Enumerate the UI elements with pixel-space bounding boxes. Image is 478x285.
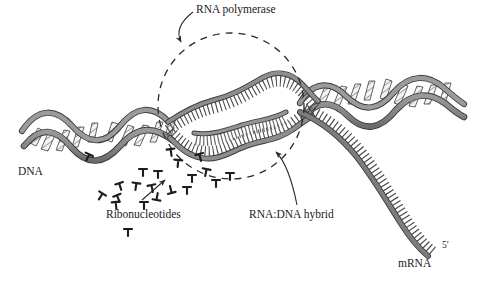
hybrid-rna-backbone xyxy=(194,112,286,134)
rna-dna-hybrid-leader xyxy=(276,152,297,205)
label-dna: DNA xyxy=(18,166,43,178)
label-rna-dna-hybrid: RNA:DNA hybrid xyxy=(249,209,334,221)
bubble-template-strand xyxy=(170,109,312,159)
ribonucleotide-entry-arrow xyxy=(142,180,165,200)
dna-left-helix xyxy=(22,110,176,161)
bubble-nontemplate-strand xyxy=(168,73,318,130)
ribonucleotide-pool xyxy=(83,148,234,236)
label-ribonucleotides: Ribonucleotides xyxy=(106,209,181,221)
rna-polymerase-leader xyxy=(179,12,193,42)
label-five-prime: 5′ xyxy=(442,241,449,251)
label-mrna: mRNA xyxy=(398,258,431,270)
label-rna-polymerase: RNA polymerase xyxy=(196,4,276,16)
mrna-transcript xyxy=(300,108,433,256)
mrna-backbone-fill xyxy=(300,112,428,256)
rna-polymerase-boundary xyxy=(158,33,304,179)
nontemplate-backbone-fill xyxy=(168,73,318,122)
diagram-canvas xyxy=(0,0,478,285)
transcription-diagram: RNA polymerase DNA Ribonucleotides RNA:D… xyxy=(0,0,478,285)
